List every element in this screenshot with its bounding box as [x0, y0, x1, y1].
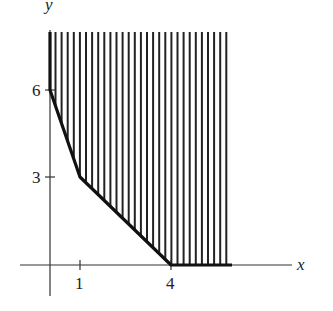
- x-axis-label: x: [296, 255, 305, 274]
- y-tick-label-3: 3: [32, 168, 41, 187]
- x-tick-label-1: 1: [75, 274, 84, 293]
- region-hatching: [56, 32, 227, 265]
- diagram-canvas: y x 1 4 3 6: [0, 0, 333, 311]
- feasible-region-plot: y x 1 4 3 6: [0, 0, 333, 311]
- x-tick-label-4: 4: [166, 274, 175, 293]
- y-tick-label-6: 6: [32, 81, 41, 100]
- y-axis-label: y: [43, 0, 53, 14]
